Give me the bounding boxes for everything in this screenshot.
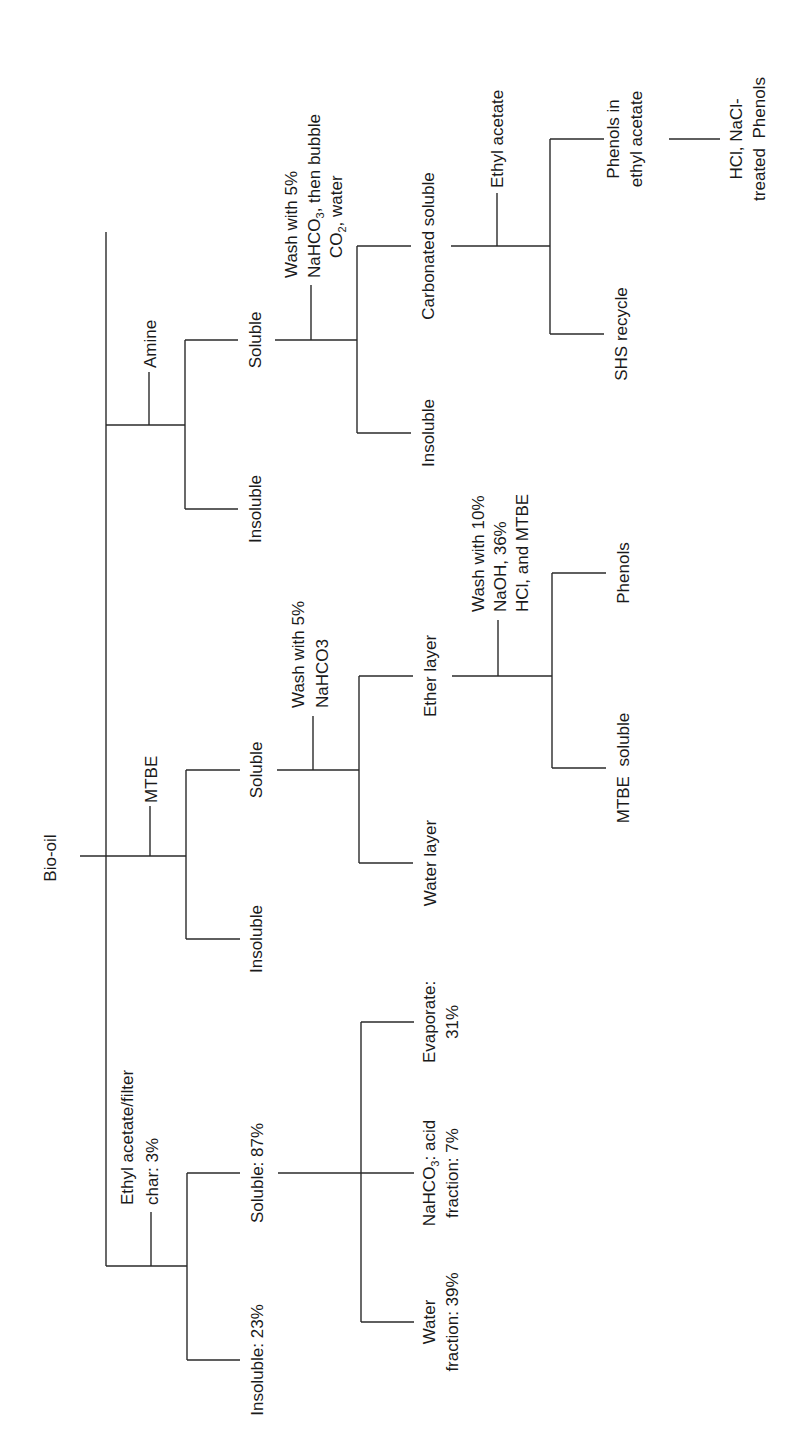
phenols-label: Phenols (614, 542, 633, 603)
root-label: Bio-oil (41, 834, 60, 881)
mtbe-soluble-label: MTBE soluble (614, 713, 633, 824)
leaf-water-fraction: Water fraction: 39% (420, 1272, 462, 1371)
svg-text:Wash with 5%: Wash with 5% (282, 171, 301, 278)
branch-ethyl-acetate: Ethyl acetate/filter char: 3% Insoluble:… (106, 981, 462, 1416)
svg-text:NaOH, 36%: NaOH, 36% (491, 521, 510, 612)
svg-text:HCl, and MTBE: HCl, and MTBE (513, 494, 532, 612)
svg-text:31%: 31% (443, 1005, 462, 1039)
bio-oil-separation-diagram: Bio-oil Ethyl acetate/filter char: 3% In… (0, 0, 799, 1440)
soluble-label: Soluble (246, 312, 265, 369)
water-layer-label: Water layer (421, 820, 440, 907)
soluble-label: Soluble (247, 742, 266, 799)
insoluble-label: Insoluble (247, 905, 266, 973)
branch-amine: Amine Insoluble Soluble Wash with 5% NaH… (106, 77, 769, 543)
leaf-evaporate: Evaporate: 31% (420, 981, 462, 1063)
svg-text:Phenols in: Phenols in (604, 99, 623, 178)
svg-text:Evaporate:: Evaporate: (420, 981, 439, 1063)
ethyl-acetate-label: Ethyl acetate (488, 90, 507, 188)
svg-text:fraction: 39%: fraction: 39% (443, 1272, 462, 1371)
svg-text:HCl, NaCl-: HCl, NaCl- (727, 98, 746, 179)
solvent-label: Ethyl acetate/filter (118, 1070, 137, 1205)
solvent-label: Amine (141, 320, 160, 368)
leaf-nahco3-acid-fraction: NaHCO3: acid fraction: 7% (420, 1120, 462, 1226)
svg-text:Water: Water (420, 1299, 439, 1344)
svg-text:ethyl acetate: ethyl acetate (627, 91, 646, 187)
soluble-label: Soluble: 87% (248, 1123, 267, 1223)
wash-label-line1: Wash with 5% (289, 601, 308, 708)
branch-mtbe: MTBE Insoluble Soluble Wash with 5% NaHC… (142, 494, 633, 973)
svg-text:CO2, water: CO2, water (327, 175, 348, 258)
svg-text:treated Phenols: treated Phenols (750, 77, 769, 201)
insoluble-label: Insoluble (246, 475, 265, 543)
svg-text:NaHCO3, then bubble: NaHCO3, then bubble (305, 114, 326, 278)
solvent-label-line2: char: 3% (143, 1138, 162, 1205)
carbonated-soluble-label: Carbonated soluble (419, 172, 438, 319)
solvent-label: MTBE (142, 756, 161, 803)
shs-recycle-label: SHS recycle (612, 287, 631, 381)
carbonated-insoluble-label: Insoluble (419, 399, 438, 467)
svg-text:fraction: 7%: fraction: 7% (443, 1128, 462, 1218)
insoluble-label: Insoluble: 23% (248, 1304, 267, 1416)
ether-layer-label: Ether layer (421, 635, 440, 718)
svg-text:Wash with 10%: Wash with 10% (469, 495, 488, 612)
wash-label-line2: NaHCO3 (313, 639, 332, 708)
root-node: Bio-oil (41, 232, 186, 1266)
svg-text:NaHCO3: acid: NaHCO3: acid (420, 1120, 441, 1226)
